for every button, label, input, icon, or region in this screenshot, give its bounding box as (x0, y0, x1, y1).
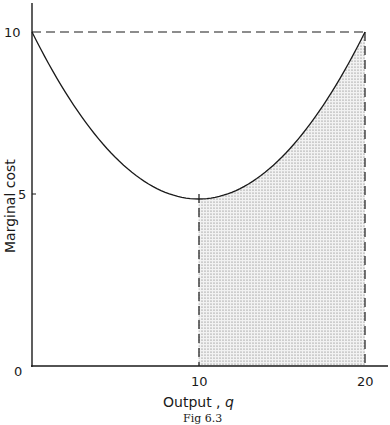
x-axis-variable: q (225, 394, 234, 410)
x-tick-label-20: 20 (357, 375, 374, 388)
origin-label: 0 (14, 365, 22, 378)
y-tick-label-10: 10 (4, 26, 21, 39)
shaded-area (199, 32, 366, 366)
y-tick-label-5: 5 (18, 188, 26, 201)
x-tick-label-10: 10 (191, 375, 208, 388)
x-axis-title-text: Output , (163, 394, 221, 410)
x-axis-title: Output , q (163, 395, 234, 409)
figure-caption: Fig 6.3 (183, 412, 222, 425)
y-axis-title: Marginal cost (3, 159, 17, 253)
